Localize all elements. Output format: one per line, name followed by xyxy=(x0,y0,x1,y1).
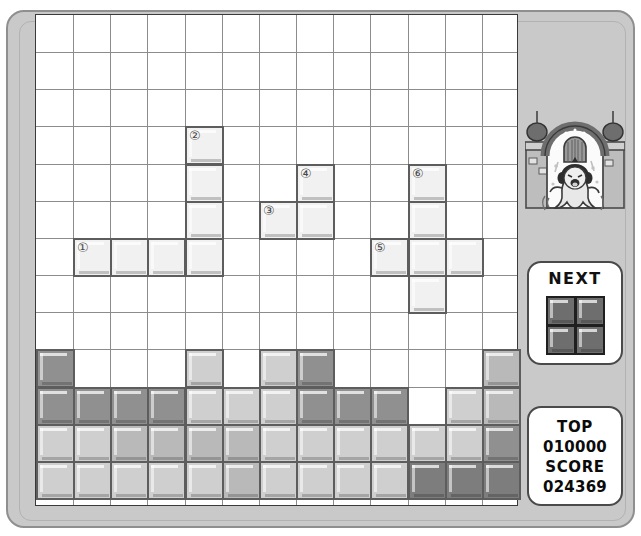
stack-block xyxy=(370,387,409,426)
piece-3-s-block xyxy=(296,201,335,240)
piece-number-label: ④ xyxy=(300,166,312,181)
stack-block xyxy=(408,424,447,463)
grid-line-horizontal xyxy=(36,52,517,53)
piece-1-j-block xyxy=(110,238,149,277)
stack-block xyxy=(259,387,298,426)
stack-block xyxy=(482,461,521,500)
stack-block xyxy=(147,461,186,500)
piece-2-j-block: ② xyxy=(185,126,224,165)
stack-block xyxy=(36,349,75,388)
stack-block xyxy=(36,424,75,463)
stack-block xyxy=(408,461,447,500)
piece-1-j-block: ① xyxy=(73,238,112,277)
stack-block xyxy=(222,424,261,463)
piece-6-plus-block xyxy=(408,275,447,314)
piece-6-plus-block xyxy=(445,238,484,277)
stack-block xyxy=(333,461,372,500)
piece-number-label: ⑤ xyxy=(374,240,386,255)
piece-2-j-block xyxy=(185,201,224,240)
stack-block xyxy=(370,424,409,463)
piece-4-s-block: ④ xyxy=(296,164,335,203)
stack-block xyxy=(36,387,75,426)
stack-block xyxy=(370,461,409,500)
grid-line-horizontal xyxy=(36,89,517,90)
piece-6-plus-block xyxy=(408,238,447,277)
next-piece-block xyxy=(575,296,605,326)
stack-block xyxy=(259,424,298,463)
game-screenshot: ①②③④⑤⑥ xyxy=(0,0,641,536)
stack-block xyxy=(482,349,521,388)
stack-block xyxy=(296,387,335,426)
next-piece-panel: NEXT xyxy=(527,261,623,365)
stack-block xyxy=(73,461,112,500)
stack-block xyxy=(36,461,75,500)
next-label: NEXT xyxy=(529,269,621,288)
top-value: 010000 xyxy=(529,437,621,457)
piece-number-label: ③ xyxy=(263,203,275,218)
piece-2-j-block xyxy=(185,164,224,203)
stack-block xyxy=(110,461,149,500)
stack-block xyxy=(296,461,335,500)
top-label: TOP xyxy=(529,417,621,437)
stack-block xyxy=(73,387,112,426)
grid-line-horizontal xyxy=(36,126,517,127)
playfield-grid[interactable]: ①②③④⑤⑥ xyxy=(35,14,518,506)
piece-5-plus-block: ⑤ xyxy=(370,238,409,277)
ghost-in-castle-window-icon xyxy=(525,104,625,222)
stack-block xyxy=(110,424,149,463)
piece-1-j-block xyxy=(185,238,224,277)
next-piece-block xyxy=(575,325,605,355)
stack-block xyxy=(296,424,335,463)
next-piece-preview xyxy=(546,296,604,354)
stack-block xyxy=(110,387,149,426)
score-panel: TOP 010000 SCORE 024369 xyxy=(527,406,623,506)
score-label: SCORE xyxy=(529,457,621,477)
stack-block xyxy=(445,424,484,463)
piece-number-label: ① xyxy=(77,240,89,255)
sidebar: NEXT TOP 010000 SCORE 024369 xyxy=(523,14,627,506)
score-value: 024369 xyxy=(529,477,621,497)
stack-block xyxy=(333,387,372,426)
stack-block xyxy=(482,387,521,426)
stack-block xyxy=(185,387,224,426)
piece-number-label: ② xyxy=(189,128,201,143)
stack-block xyxy=(222,387,261,426)
stack-block xyxy=(222,461,261,500)
stack-block xyxy=(185,349,224,388)
next-piece-block xyxy=(546,325,576,355)
stack-block xyxy=(445,461,484,500)
stack-block xyxy=(147,424,186,463)
stack-block xyxy=(482,424,521,463)
stack-block xyxy=(259,349,298,388)
stack-block xyxy=(259,461,298,500)
stack-block xyxy=(296,349,335,388)
stack-block xyxy=(445,387,484,426)
piece-number-label: ⑥ xyxy=(412,166,424,181)
stack-block xyxy=(185,461,224,500)
stack-block xyxy=(147,387,186,426)
piece-1-j-block xyxy=(147,238,186,277)
stack-block xyxy=(333,424,372,463)
piece-6-plus-block: ⑥ xyxy=(408,164,447,203)
piece-6-plus-block xyxy=(408,201,447,240)
stack-block xyxy=(73,424,112,463)
piece-3-s-block: ③ xyxy=(259,201,298,240)
stack-block xyxy=(185,424,224,463)
next-piece-block xyxy=(546,296,576,326)
